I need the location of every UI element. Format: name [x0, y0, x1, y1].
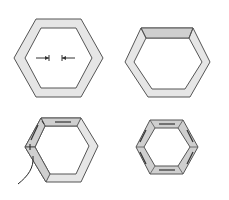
step-4-hexagon [136, 120, 198, 174]
step-2-hexagon [125, 28, 210, 97]
step-1-hexagon [14, 19, 103, 97]
thread [18, 156, 33, 184]
step-3-hexagon [18, 118, 98, 184]
diagram: Step 1: paper template centered on fabri… [0, 0, 229, 200]
folded-edge [141, 28, 193, 38]
